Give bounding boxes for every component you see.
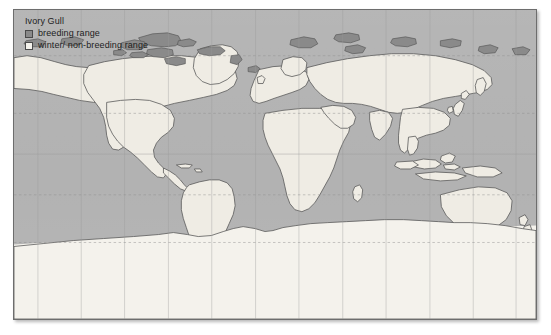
legend-swatch-winter-non-breeding-range: [25, 42, 33, 50]
breeding-patch-new-siberian-islands: [440, 39, 461, 48]
map-figure: Ivory Gull breeding range winter/ non-br…: [0, 0, 551, 335]
breeding-patch-franz-josef-land: [334, 33, 360, 43]
legend-label-winter-non-breeding-range: winter/ non-breeding range: [38, 40, 148, 51]
breeding-patch-severnaya-zemlya: [391, 37, 417, 47]
legend-swatch-breeding-range: [25, 30, 33, 38]
map-legend: Ivory Gull breeding range winter/ non-br…: [23, 15, 152, 53]
legend-item-breeding-range: breeding range: [25, 28, 148, 39]
world-map-graphic: [14, 10, 536, 319]
legend-item-winter-non-breeding-range: winter/ non-breeding range: [25, 40, 148, 51]
legend-label-breeding-range: breeding range: [38, 28, 100, 39]
legend-title: Ivory Gull: [25, 16, 148, 27]
world-map-panel: Ivory Gull breeding range winter/ non-br…: [13, 9, 537, 320]
